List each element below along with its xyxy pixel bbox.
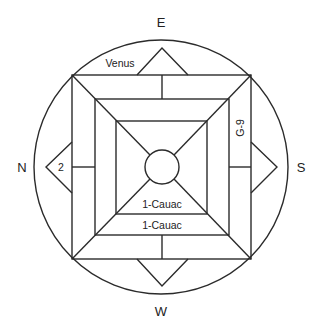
label-inner-cauac: 1-Cauac bbox=[142, 198, 182, 210]
direction-label-east: E bbox=[157, 15, 166, 30]
label-venus: Venus bbox=[105, 57, 134, 69]
direction-label-west: W bbox=[155, 304, 168, 319]
center-circle bbox=[145, 150, 179, 184]
south-triangle bbox=[251, 142, 277, 193]
direction-label-south: S bbox=[297, 160, 306, 175]
label-two: 2 bbox=[58, 161, 64, 173]
east-triangle bbox=[137, 48, 188, 75]
label-g9: G-9 bbox=[234, 119, 246, 137]
cosmogram-diagram: E N S W Venus 2 G-9 1-Cauac 1-Cauac bbox=[0, 0, 319, 331]
label-middle-cauac: 1-Cauac bbox=[142, 219, 182, 231]
west-triangle bbox=[137, 259, 188, 286]
direction-label-north: N bbox=[17, 160, 26, 175]
